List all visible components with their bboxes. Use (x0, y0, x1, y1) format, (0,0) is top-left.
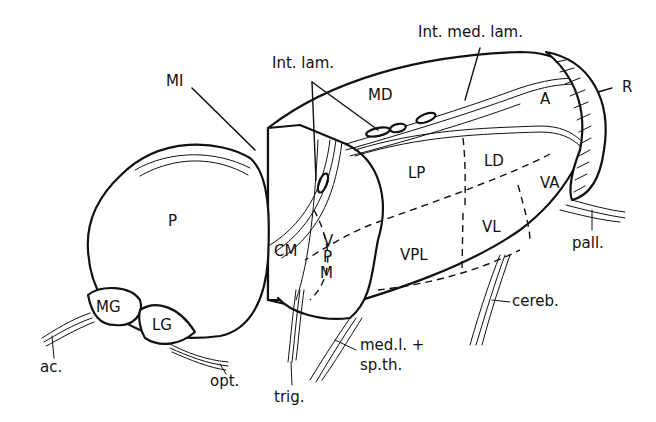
label-opt: opt. (210, 374, 239, 389)
label-VL: VL (482, 220, 501, 235)
label-VPM-M: M (320, 266, 333, 281)
label-int-med-lam: Int. med. lam. (418, 25, 523, 40)
label-LP: LP (408, 166, 425, 181)
label-VA: VA (540, 176, 560, 191)
label-A: A (540, 92, 550, 107)
label-VPM-P: P (323, 250, 332, 265)
label-R: R (622, 80, 632, 95)
label-LG: LG (152, 318, 172, 333)
thalamus-diagram: MI Int. lam. Int. med. lam. MD A R LP LD… (0, 0, 656, 422)
label-VPL: VPL (400, 248, 428, 263)
label-CM: CM (274, 244, 297, 259)
label-P: P (168, 214, 177, 229)
label-int-lam: Int. lam. (272, 56, 334, 71)
label-cereb: cereb. (512, 294, 559, 309)
label-MG: MG (96, 300, 121, 315)
label-trig: trig. (274, 390, 305, 405)
label-MD: MD (368, 88, 393, 103)
label-LD: LD (484, 154, 504, 169)
label-VPM-V: V (323, 234, 333, 249)
label-pall: pall. (572, 236, 604, 251)
label-medl: med.l. + (360, 338, 424, 353)
label-ac: ac. (40, 360, 62, 375)
label-spth: sp.th. (360, 358, 402, 373)
label-MI: MI (166, 74, 183, 89)
